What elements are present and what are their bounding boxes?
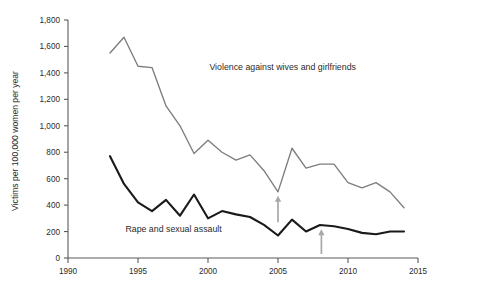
x-tick-label: 1990 [59, 267, 78, 276]
y-tick-label: 400 [46, 201, 60, 210]
y-tick-label: 1,000 [40, 122, 61, 131]
y-tick-label: 1,400 [40, 69, 61, 78]
y-tick-label: 600 [46, 175, 60, 184]
line-chart: Victims per 100,000 women per year 02004… [0, 0, 489, 292]
arrow-head [275, 196, 281, 202]
x-tick-label: 2015 [409, 267, 428, 276]
y-tick-label: 800 [46, 148, 60, 157]
arrow-rape-2008 [318, 229, 324, 254]
x-tick-label: 2005 [269, 267, 288, 276]
y-axis-title: Victims per 100,000 women per year [10, 71, 20, 211]
x-tick-label: 2000 [199, 267, 218, 276]
y-tick-label: 200 [46, 228, 60, 237]
series-label-rape: Rape and sexual assault [125, 224, 222, 234]
arrow-violence-2005 [275, 196, 281, 222]
chart-container: Victims per 100,000 women per year 02004… [0, 0, 489, 292]
arrow-head [318, 229, 324, 235]
series-label-violence: Violence against wives and girlfriends [209, 62, 356, 72]
x-tick-label: 1995 [129, 267, 148, 276]
y-tick-label: 1,800 [40, 16, 61, 25]
x-tick-label: 2010 [339, 267, 358, 276]
y-tick-label: 1,200 [40, 95, 61, 104]
y-tick-label: 0 [55, 254, 60, 263]
y-axis-ticks: 02004006008001,0001,2001,4001,6001,800 [40, 16, 69, 263]
x-axis-ticks: 199019952000200520102015 [59, 258, 428, 276]
y-tick-label: 1,600 [40, 42, 61, 51]
